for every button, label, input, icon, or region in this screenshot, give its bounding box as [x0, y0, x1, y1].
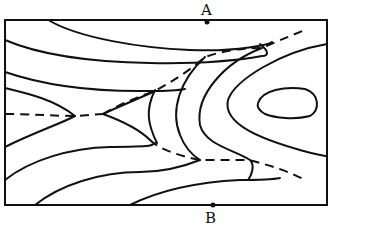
contour-line [5, 88, 75, 116]
point-a-marker [205, 20, 210, 25]
contour-line [227, 44, 327, 156]
contour-line [5, 116, 75, 147]
contour-lines [5, 21, 327, 205]
contour-diagram: A B [0, 0, 383, 227]
point-b: B [205, 203, 216, 228]
contour-line [103, 114, 150, 140]
point-a-label: A [200, 1, 212, 19]
dashed-line [150, 140, 305, 180]
point-b-marker [211, 203, 216, 208]
contour-line [35, 160, 200, 205]
point-b-label: B [205, 209, 216, 227]
contour-line [149, 90, 157, 143]
contour-line [130, 178, 280, 205]
contour-line [50, 21, 272, 50]
dashed-line [5, 114, 103, 116]
contour-oval [258, 88, 317, 118]
contour-line [5, 143, 155, 180]
